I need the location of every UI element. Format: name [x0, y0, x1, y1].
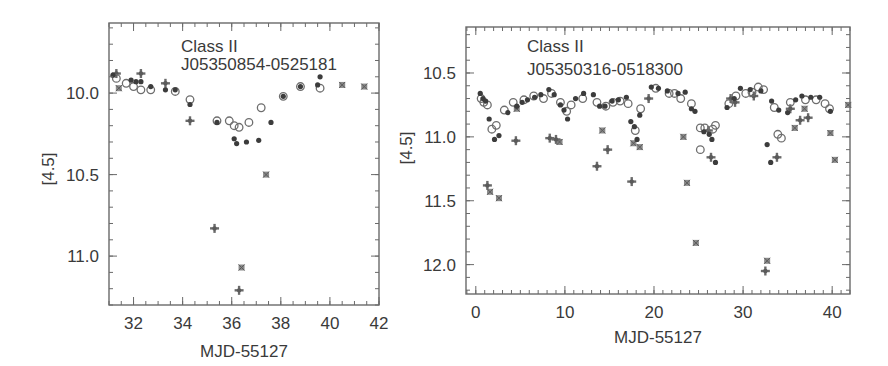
x-tick-label: 40: [320, 314, 339, 333]
chart-canvas: 32343638404210.010.511.0 Class II J05350…: [0, 0, 888, 366]
cross-square-marker: [599, 127, 605, 133]
filled-circle-marker: [317, 74, 322, 79]
filled-circle-marker: [133, 79, 138, 84]
filled-circle-marker: [765, 142, 770, 147]
plus-marker: [644, 94, 653, 103]
cross-square-marker: [827, 130, 833, 136]
cross-square-marker: [693, 240, 699, 246]
x-tick-label: 20: [645, 303, 664, 322]
filled-circle-marker: [532, 95, 537, 100]
filled-circle-marker: [817, 95, 822, 100]
plus-marker: [772, 153, 781, 162]
filled-circle-marker: [616, 97, 621, 102]
filled-circle-marker: [748, 87, 753, 92]
plus-marker: [161, 79, 170, 88]
plus-marker: [210, 224, 219, 233]
y-tick-label: 11.0: [67, 247, 99, 266]
cross-square-marker: [339, 82, 345, 88]
cross-square-marker: [764, 258, 770, 264]
plus-marker: [483, 181, 492, 190]
filled-circle-marker: [558, 102, 563, 107]
open-circle-marker: [624, 100, 632, 108]
open-circle-marker: [637, 105, 645, 113]
filled-circle-marker: [525, 97, 530, 102]
open-circle-marker: [821, 100, 829, 108]
x-tick-label: 36: [222, 314, 241, 333]
open-circle-marker: [697, 146, 705, 154]
cross-square-marker: [116, 85, 122, 91]
plus-marker: [796, 116, 805, 125]
x-tick-label: 42: [370, 314, 389, 333]
filled-circle-marker: [799, 93, 804, 98]
filled-circle-marker: [163, 87, 168, 92]
cross-square-marker: [361, 84, 367, 90]
filled-circle-marker: [649, 84, 654, 89]
data-points: [477, 83, 851, 275]
cross-square-marker: [263, 172, 269, 178]
filled-circle-marker: [483, 98, 488, 103]
filled-circle-marker: [315, 82, 320, 87]
open-circle-marker: [230, 122, 238, 130]
filled-circle-marker: [785, 110, 790, 115]
plus-marker: [592, 162, 601, 171]
filled-circle-marker: [776, 107, 781, 112]
filled-circle-marker: [769, 98, 774, 103]
annotation-class: Class II: [181, 37, 238, 56]
filled-circle-marker: [637, 113, 642, 118]
filled-circle-marker: [632, 124, 637, 129]
panel-left: 32343638404210.010.511.0 Class II J05350…: [39, 23, 388, 361]
filled-circle-marker: [148, 84, 153, 89]
filled-circle-marker: [232, 136, 237, 141]
filled-circle-marker: [298, 84, 303, 89]
plus-marker: [545, 134, 554, 143]
filled-circle-marker: [565, 116, 570, 121]
filled-circle-marker: [808, 95, 813, 100]
plus-marker: [235, 286, 244, 295]
y-tick-label: 10.0: [66, 84, 99, 103]
filled-circle-marker: [707, 132, 712, 137]
x-tick-label: 10: [555, 303, 574, 322]
filled-circle-marker: [138, 79, 143, 84]
filled-circle-marker: [597, 104, 602, 109]
filled-circle-marker: [561, 107, 566, 112]
filled-circle-marker: [828, 109, 833, 114]
filled-circle-marker: [187, 102, 192, 107]
filled-circle-marker: [173, 87, 178, 92]
x-tick-label: 40: [823, 303, 842, 322]
filled-circle-marker: [692, 109, 697, 114]
filled-circle-marker: [675, 91, 680, 96]
plus-marker: [761, 267, 770, 276]
filled-circle-marker: [634, 137, 639, 142]
filled-circle-marker: [538, 92, 543, 97]
filled-circle-marker: [581, 91, 586, 96]
panel-right: 01020304010.511.011.512.0 Class II J0535…: [397, 27, 851, 347]
filled-circle-marker: [656, 86, 661, 91]
filled-circle-marker: [628, 119, 633, 124]
y-tick-label: 10.5: [66, 166, 99, 185]
filled-circle-marker: [709, 137, 714, 142]
x-tick-label: 32: [124, 314, 143, 333]
filled-circle-marker: [732, 96, 737, 101]
filled-circle-marker: [496, 133, 501, 138]
filled-circle-marker: [738, 86, 743, 91]
filled-circle-marker: [701, 129, 706, 134]
data-points: [110, 69, 367, 295]
filled-circle-marker: [573, 96, 578, 101]
x-tick-label: 38: [271, 314, 290, 333]
filled-circle-marker: [665, 88, 670, 93]
annotation-class: Class II: [527, 37, 584, 56]
cross-square-marker: [792, 125, 798, 131]
figure: 32343638404210.010.511.0 Class II J05350…: [0, 0, 888, 366]
filled-circle-marker: [244, 139, 249, 144]
cross-square-marker: [637, 144, 643, 150]
filled-circle-marker: [758, 88, 763, 93]
cross-square-marker: [496, 195, 502, 201]
cross-square-marker: [802, 106, 808, 112]
filled-circle-marker: [713, 160, 718, 165]
filled-circle-marker: [478, 91, 483, 96]
x-tick-label: 34: [173, 314, 192, 333]
x-tick-label: 30: [734, 303, 753, 322]
x-axis-label: MJD-55127: [614, 328, 702, 347]
y-axis-label: [4.5]: [39, 152, 58, 185]
open-circle-marker: [257, 104, 265, 112]
